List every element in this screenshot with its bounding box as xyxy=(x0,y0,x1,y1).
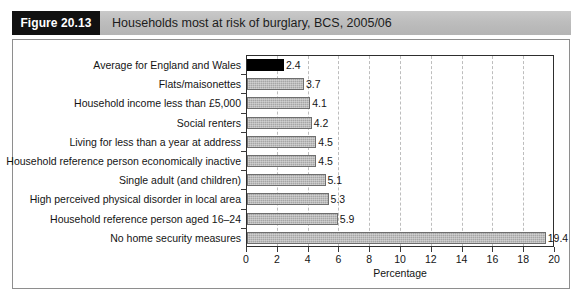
category-label: No home security measures xyxy=(110,228,241,249)
x-axis-tick xyxy=(246,247,247,252)
x-axis-tick-label: 14 xyxy=(447,253,477,265)
x-axis-tick xyxy=(554,247,555,252)
x-axis-tick-label: 0 xyxy=(231,253,261,265)
x-axis-tick-label: 20 xyxy=(539,253,569,265)
x-axis-tick-label: 12 xyxy=(416,253,446,265)
bar-value-label: 19.4 xyxy=(548,229,568,247)
bar xyxy=(247,193,329,205)
bar-value-label: 4.1 xyxy=(312,94,327,112)
bar-row: Average for England and Wales2.4 xyxy=(0,55,584,76)
x-axis-tick xyxy=(523,247,524,252)
bar-row: High perceived physical disorder in loca… xyxy=(0,189,584,210)
y-axis-tick xyxy=(241,93,247,94)
bar xyxy=(247,59,284,71)
y-axis-tick xyxy=(241,132,247,133)
bar xyxy=(247,78,304,90)
x-axis-title: Percentage xyxy=(246,267,554,279)
bar-value-label: 2.4 xyxy=(286,56,301,74)
y-axis-tick xyxy=(241,151,247,152)
x-axis-tick-label: 6 xyxy=(323,253,353,265)
x-axis-tick xyxy=(462,247,463,252)
y-axis-tick xyxy=(241,74,247,75)
bar-value-label: 5.3 xyxy=(331,190,346,208)
bar-value-label: 4.5 xyxy=(318,133,333,151)
x-axis-tick-label: 2 xyxy=(262,253,292,265)
bar xyxy=(247,117,312,129)
x-axis-tick xyxy=(277,247,278,252)
bar xyxy=(247,213,338,225)
bar xyxy=(247,232,546,244)
x-axis-tick xyxy=(308,247,309,252)
bar-row: Single adult (and children)5.1 xyxy=(0,170,584,191)
category-label: Household reference person aged 16–24 xyxy=(50,209,241,230)
bar-row: Household income less than £5,0004.1 xyxy=(0,93,584,114)
x-axis-tick-label: 8 xyxy=(354,253,384,265)
x-axis-tick-label: 18 xyxy=(508,253,538,265)
x-axis-tick xyxy=(369,247,370,252)
y-axis-tick xyxy=(241,228,247,229)
bar-value-label: 4.5 xyxy=(318,152,333,170)
category-label: Household reference person economically … xyxy=(6,151,241,172)
x-axis-tick xyxy=(431,247,432,252)
bar xyxy=(247,155,316,167)
bar xyxy=(247,97,310,109)
category-label: Living for less than a year at address xyxy=(69,132,241,153)
y-axis-tick xyxy=(241,113,247,114)
category-label: High perceived physical disorder in loca… xyxy=(30,189,241,210)
x-axis-tick xyxy=(338,247,339,252)
figure-container: Figure 20.13 Households most at risk of … xyxy=(0,0,584,300)
x-axis-tick-label: 4 xyxy=(293,253,323,265)
bar xyxy=(247,136,316,148)
category-label: Social renters xyxy=(177,113,241,134)
bar-row: Flats/maisonettes3.7 xyxy=(0,74,584,95)
bar xyxy=(247,174,326,186)
x-axis-tick-label: 16 xyxy=(477,253,507,265)
bar-value-label: 3.7 xyxy=(306,75,321,93)
y-axis-tick xyxy=(241,170,247,171)
y-axis-tick xyxy=(241,189,247,190)
y-axis-tick xyxy=(241,209,247,210)
category-label: Average for England and Wales xyxy=(93,55,241,76)
category-label: Single adult (and children) xyxy=(119,170,241,191)
x-axis-tick xyxy=(492,247,493,252)
bar-row: Social renters4.2 xyxy=(0,113,584,134)
category-label: Household income less than £5,000 xyxy=(74,93,241,114)
category-label: Flats/maisonettes xyxy=(159,74,241,95)
x-axis-tick xyxy=(400,247,401,252)
bar-row: Living for less than a year at address4.… xyxy=(0,132,584,153)
bar-row: No home security measures19.4 xyxy=(0,228,584,249)
bar-chart: Average for England and Wales2.4Flats/ma… xyxy=(0,0,584,300)
bar-value-label: 4.2 xyxy=(314,114,329,132)
bar-row: Household reference person economically … xyxy=(0,151,584,172)
bar-value-label: 5.1 xyxy=(328,171,343,189)
bar-row: Household reference person aged 16–245.9 xyxy=(0,209,584,230)
x-axis-tick-label: 10 xyxy=(385,253,415,265)
bar-value-label: 5.9 xyxy=(340,210,355,228)
